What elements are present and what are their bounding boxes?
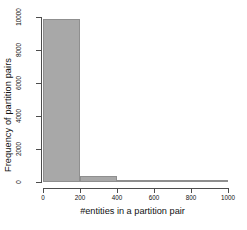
- x-axis-tick: [154, 188, 155, 193]
- y-axis-tick-label: 8000: [13, 33, 23, 67]
- y-axis-line: [41, 17, 42, 183]
- y-axis-tick: [36, 182, 41, 183]
- histogram-bar: [43, 19, 80, 182]
- y-axis-tick-label: 10000: [13, 0, 23, 34]
- histogram-bar: [80, 176, 117, 182]
- y-axis-tick: [36, 116, 41, 117]
- x-axis-tick-label: 600: [139, 194, 169, 201]
- histogram-bar: [154, 180, 191, 182]
- y-axis-tick-label: 6000: [13, 66, 23, 100]
- histogram-bar: [117, 180, 154, 182]
- x-axis-tick-label: 200: [65, 194, 95, 201]
- x-axis-tick: [228, 188, 229, 193]
- x-axis-tick-label: 800: [176, 194, 206, 201]
- x-axis-tick: [80, 188, 81, 193]
- bar-series: [43, 17, 228, 182]
- x-axis-title: #entities in a partition pair: [30, 206, 235, 216]
- x-axis-tick: [191, 188, 192, 193]
- y-axis-tick-label: 2000: [13, 132, 23, 166]
- x-axis-line: [43, 188, 229, 189]
- y-axis-tick: [36, 50, 41, 51]
- x-axis-tick: [43, 188, 44, 193]
- x-axis-tick-label: 0: [28, 194, 58, 201]
- plot-area: [43, 17, 228, 182]
- x-axis-tick: [117, 188, 118, 193]
- histogram-figure: Frequency of partition pairs 02000400060…: [0, 0, 247, 230]
- x-axis-tick-label: 400: [102, 194, 132, 201]
- y-axis-tick: [36, 17, 41, 18]
- histogram-bar: [191, 180, 228, 182]
- y-axis-tick-label: 4000: [13, 99, 23, 133]
- y-axis-tick: [36, 83, 41, 84]
- y-axis-tick-label: 0: [13, 165, 23, 199]
- y-axis-tick: [36, 149, 41, 150]
- x-axis-tick-label: 1000: [213, 194, 243, 201]
